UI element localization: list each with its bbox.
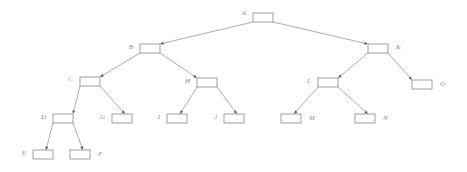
tree-node-label-b: B [129,43,134,51]
tree-node-h[interactable] [197,78,217,87]
edge-arrow-icon [234,110,237,114]
edge-line [296,87,318,111]
edge-line [160,53,194,76]
edge-line [74,86,80,111]
tree-diagram-canvas: ABKCHLODGIJMNEF [0,0,467,172]
tree-node-label-m: M [308,114,316,122]
edge-line [164,22,253,43]
tree-node-l[interactable] [318,78,338,87]
tree-node-label-k: K [395,43,401,51]
tree-node-label-h: H [184,77,191,85]
nodes-layer [33,13,432,159]
tree-edge [338,87,368,114]
edge-arrow-icon [180,110,183,114]
edge-line [388,53,410,77]
tree-node-j[interactable] [224,114,244,123]
tree-node-d[interactable] [53,114,73,123]
tree-edge [72,86,80,114]
tree-edge [100,86,125,114]
tree-edge [45,123,53,150]
tree-node-label-g: G [100,113,105,121]
tree-node-label-f: F [97,150,103,158]
tree-node-c[interactable] [80,77,100,86]
tree-edge [180,87,197,114]
edge-line [182,87,197,111]
tree-node-i[interactable] [167,114,187,123]
tree-node-label-j: J [214,113,218,121]
tree-edge [100,53,140,77]
tree-edge [160,53,197,78]
tree-node-e[interactable] [33,150,53,159]
edge-arrow-icon [364,42,368,45]
tree-edge [73,123,83,150]
tree-edge [217,87,237,114]
tree-node-label-i: I [157,113,161,121]
tree-node-label-e: E [21,149,27,157]
edge-line [273,22,364,43]
edge-arrow-icon [80,146,83,150]
tree-edge [294,87,318,114]
edge-line [100,86,123,111]
edge-line [47,123,53,147]
tree-node-label-d: D [40,113,46,121]
tree-node-label-l: L [306,77,311,85]
tree-node-label-c: C [68,75,73,83]
tree-node-f[interactable] [70,150,90,159]
tree-node-label-o: O [440,80,445,88]
edges-layer [45,22,412,150]
edge-arrow-icon [72,110,75,114]
tree-node-a[interactable] [253,13,273,22]
edge-arrow-icon [45,146,48,150]
edge-line [217,87,235,111]
edge-line [341,53,368,76]
tree-node-m[interactable] [281,114,301,123]
tree-node-label-n: N [382,114,388,122]
tree-edge [338,53,368,78]
edge-line [338,87,365,112]
tree-diagram: ABKCHLODGIJMNEF [0,0,467,172]
tree-edge [160,22,253,45]
edge-arrow-icon [193,75,197,78]
tree-node-g[interactable] [112,114,132,123]
tree-node-k[interactable] [368,44,388,53]
tree-edge [388,53,412,80]
edge-arrow-icon [160,42,164,45]
tree-edge [273,22,368,45]
tree-node-b[interactable] [140,44,160,53]
tree-node-label-a: A [241,9,247,17]
edge-line [103,53,140,75]
tree-node-o[interactable] [412,80,432,89]
tree-node-n[interactable] [355,114,375,123]
edge-line [73,123,82,147]
